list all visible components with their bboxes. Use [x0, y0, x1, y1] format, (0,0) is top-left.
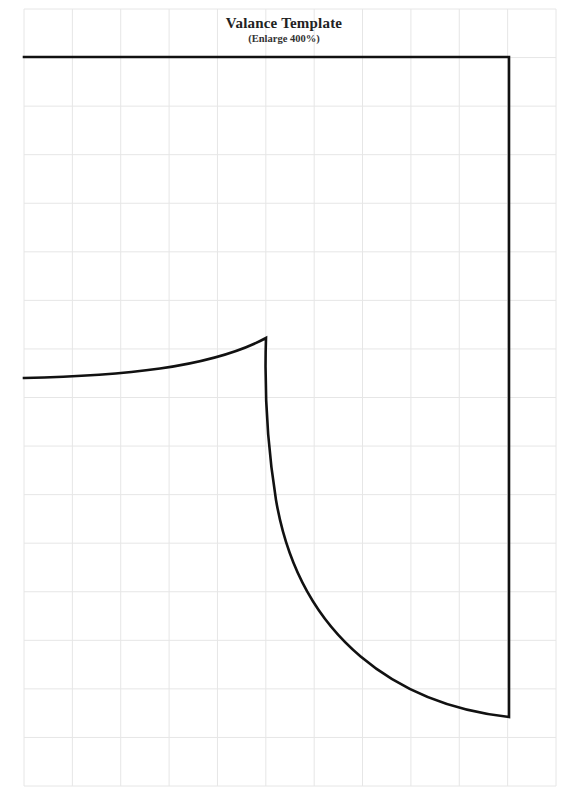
template-sheet: [0, 0, 568, 794]
page-title: Valance Template: [0, 15, 568, 32]
grid-lines: [24, 9, 556, 786]
valance-pattern-outline: [24, 57, 509, 717]
page-subtitle: (Enlarge 400%): [0, 33, 568, 44]
template-page: Valance Template (Enlarge 400%): [0, 0, 568, 794]
